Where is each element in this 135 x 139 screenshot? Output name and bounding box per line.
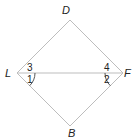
side-BL [17, 73, 70, 126]
angle-label-1: 1 [27, 74, 33, 85]
side-FB [70, 73, 123, 126]
vertex-label-L: L [5, 67, 11, 79]
angle-label-4: 4 [104, 62, 110, 73]
side-LD [17, 20, 70, 73]
angle-label-3: 3 [27, 62, 33, 73]
side-DF [70, 20, 123, 73]
vertex-label-B: B [68, 127, 75, 139]
quadrilateral-diagram: D L F B 3 1 4 2 [0, 0, 135, 139]
angle-label-2: 2 [104, 74, 110, 85]
vertex-label-F: F [124, 67, 132, 79]
vertex-label-D: D [62, 4, 70, 16]
